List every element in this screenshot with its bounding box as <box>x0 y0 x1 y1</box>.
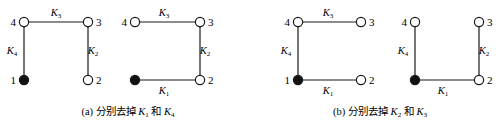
edge-label: K3 <box>158 7 170 20</box>
graph-diagram: K3K2K41234K3K2K1234K3K4K11234K4K2K1234 (… <box>0 0 502 126</box>
node-label: 2 <box>487 74 493 86</box>
node-label: 4 <box>402 16 408 28</box>
node-label: 1 <box>285 74 291 86</box>
node-label: 3 <box>208 16 214 28</box>
open-node-icon <box>130 17 139 26</box>
edge-label: K3 <box>322 7 334 20</box>
node-label: 4 <box>11 16 17 28</box>
open-node-icon <box>474 75 483 84</box>
open-node-icon <box>410 17 419 26</box>
open-node-icon <box>19 17 28 26</box>
filled-node-icon <box>293 75 302 84</box>
open-node-icon <box>356 75 365 84</box>
edge-label: K1 <box>437 85 449 98</box>
caption-b: (b) 分别去掉 K2 和 K3 <box>333 105 427 119</box>
node-label: 4 <box>285 16 291 28</box>
node-label: 3 <box>369 16 375 28</box>
node-label: 2 <box>208 74 214 86</box>
open-node-icon <box>83 17 92 26</box>
open-node-icon <box>474 17 483 26</box>
open-node-icon <box>195 17 204 26</box>
edge-label: K4 <box>397 45 409 58</box>
node-label: 2 <box>96 74 102 86</box>
filled-node-icon <box>19 75 28 84</box>
edge-label: K3 <box>50 7 62 20</box>
node-label: 1 <box>11 74 17 86</box>
open-node-icon <box>356 17 365 26</box>
edge-label: K1 <box>322 85 334 98</box>
open-node-icon <box>293 17 302 26</box>
edge-label: K1 <box>158 85 170 98</box>
filled-node-icon <box>410 75 419 84</box>
node-label: 2 <box>369 74 375 86</box>
open-node-icon <box>83 75 92 84</box>
edge-label: K4 <box>280 45 292 58</box>
node-label: 4 <box>122 16 128 28</box>
edge-label: K4 <box>6 45 18 58</box>
node-label: 3 <box>96 16 102 28</box>
caption-a: (a) 分别去掉 K1 和 K4 <box>81 105 175 119</box>
filled-node-icon <box>130 75 139 84</box>
captions-layer: (a) 分别去掉 K1 和 K4(b) 分别去掉 K2 和 K3 <box>81 105 427 119</box>
node-label: 3 <box>487 16 493 28</box>
open-node-icon <box>195 75 204 84</box>
